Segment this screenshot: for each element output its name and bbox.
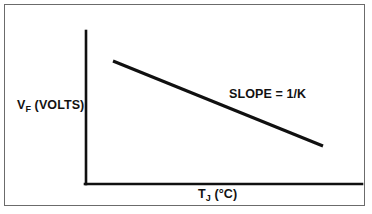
y-axis-label-unit: (VOLTS) bbox=[31, 98, 84, 112]
y-axis-label: VF (VOLTS) bbox=[17, 98, 84, 116]
slope-annotation: SLOPE = 1/K bbox=[229, 87, 306, 101]
figure-container: VF (VOLTS) TJ (°C) SLOPE = 1/K bbox=[0, 0, 372, 214]
data-line-vf-vs-tj bbox=[113, 61, 323, 146]
x-axis-label-unit: (°C) bbox=[211, 187, 237, 201]
x-axis-label: TJ (°C) bbox=[198, 187, 237, 205]
x-axis-label-symbol: T bbox=[198, 187, 206, 201]
